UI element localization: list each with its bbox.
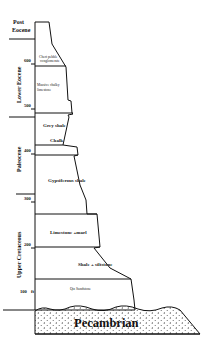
depth-axis: 600 500 400 300 200 100 ft [20, 58, 35, 294]
svg-text:100: 100 [20, 289, 28, 294]
layer-massive-chalky-limestone: Massive chalky limestone [37, 83, 60, 92]
layer-limestone-marl: Limestone +marl [50, 230, 87, 235]
stratigraphic-column-diagram: Post Eocene Lower Eocene Paleocene Upper… [0, 0, 211, 354]
layer-chert-pebble-conglomerate: Chert pebble conglomerate [39, 55, 60, 63]
layer-gypsiferous-shale: Gypsiferous shale [48, 178, 87, 183]
svg-text:Massive chalky: Massive chalky [37, 83, 60, 87]
epoch-post-eocene: Post Eocene [12, 19, 31, 33]
epoch-paleocene: Paleocene [16, 146, 22, 172]
svg-text:limestone: limestone [37, 88, 51, 92]
layer-shale-siltstone: Shale + siltstone [78, 262, 113, 267]
svg-text:500: 500 [24, 103, 32, 108]
svg-text:ft: ft [31, 289, 35, 294]
epoch-upper-cretaceous: Upper Cretaceous [16, 231, 22, 278]
svg-text:400: 400 [24, 148, 32, 153]
svg-text:200: 200 [24, 242, 32, 247]
epoch-lower-eocene: Lower Eocene [16, 66, 22, 103]
svg-text:600: 600 [24, 58, 32, 63]
layer-grey-shale: Grey shale [43, 123, 67, 128]
svg-text:conglomerate: conglomerate [40, 59, 60, 63]
svg-text:300: 300 [24, 196, 32, 201]
svg-text:Eocene: Eocene [12, 27, 31, 33]
layer-chalk: Chalk [50, 138, 63, 143]
svg-text:Post: Post [13, 19, 24, 25]
layer-qtz-sandstone: Qtz Sandstone [70, 287, 91, 291]
basement-label: Pecambrian [74, 316, 139, 330]
